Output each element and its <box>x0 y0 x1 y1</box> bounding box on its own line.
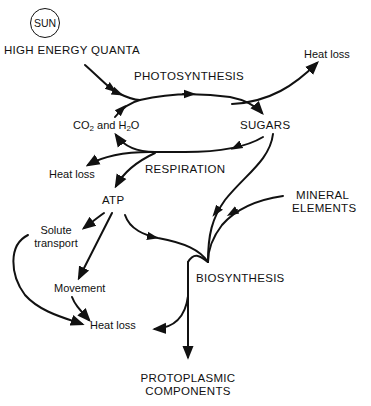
sun-label: SUN <box>34 17 56 29</box>
arrow-co2-to-photosynthesis <box>115 100 140 117</box>
sun-node: SUN <box>30 8 60 38</box>
biosynthesis-label: BIOSYNTHESIS <box>196 272 285 285</box>
high-energy-quanta-label: HIGH ENERGY QUANTA <box>4 44 140 57</box>
sugars-label: SUGARS <box>240 119 290 132</box>
mineral-elements-label: MINERALELEMENTS <box>292 189 356 215</box>
arrow-movement-to-heat-loss <box>72 297 89 320</box>
atp-label: ATP <box>102 194 124 207</box>
arrow-biosynthesis-to-heat-loss <box>155 296 188 329</box>
co2-h2o-label: CO2 and H2O <box>73 119 139 135</box>
photosynthesis-label: PHOTOSYNTHESIS <box>134 70 244 83</box>
arrow-photosynthesis-to-heat-loss <box>232 63 317 104</box>
heat-loss-respiration-label: Heat loss <box>49 168 95 181</box>
arrow-sugars-to-biosynthesis <box>208 134 273 262</box>
protoplasmic-components-label: PROTOPLASMICCOMPONENTS <box>130 372 246 398</box>
movement-label: Movement <box>54 282 105 295</box>
respiration-label: RESPIRATION <box>145 163 225 176</box>
arrow-atp-to-solute <box>84 213 104 228</box>
arrow-respiration-to-co2 <box>116 135 155 152</box>
solute-transport-label: Solutetransport <box>28 224 84 250</box>
arrow-sugars-to-respiration <box>150 137 263 152</box>
arrow-quanta-to-photosynthesis <box>85 65 140 100</box>
arrow-mineral-to-biosynthesis <box>208 196 283 262</box>
heat-loss-bottom-label: Heat loss <box>90 319 136 332</box>
arrow-respiration-to-heat-loss <box>88 152 150 165</box>
heat-loss-top-label: Heat loss <box>304 48 350 61</box>
